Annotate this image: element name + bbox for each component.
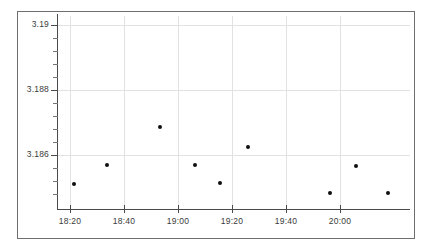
x-tick-20:00 bbox=[340, 205, 341, 213]
data-point bbox=[218, 181, 222, 185]
x-tick-19:40 bbox=[286, 205, 287, 213]
data-point bbox=[386, 191, 390, 195]
x-tick-label-20:00: 20:00 bbox=[317, 216, 363, 226]
x-tick-label-18:20: 18:20 bbox=[47, 216, 93, 226]
y-tick-3.188 bbox=[51, 90, 58, 91]
gridline-vertical-20:00 bbox=[340, 16, 341, 207]
y-tick-label-3.19: 3.19 bbox=[9, 20, 49, 29]
gridline-vertical-18:20 bbox=[70, 16, 71, 207]
y-tick-label-3.186: 3.186 bbox=[9, 150, 49, 159]
y-tick-3.186 bbox=[51, 155, 58, 156]
gridline-horizontal-3.188 bbox=[57, 90, 410, 91]
gridline-vertical-19:40 bbox=[286, 16, 287, 207]
y-minor-tick-8 bbox=[53, 168, 58, 169]
y-minor-tick-5 bbox=[53, 116, 58, 117]
y-axis-tick-labels: 3.193.1883.186 bbox=[3, 0, 49, 252]
gridline-vertical-19:20 bbox=[232, 16, 233, 207]
x-tick-label-19:40: 19:40 bbox=[263, 216, 309, 226]
y-minor-tick-0 bbox=[53, 38, 58, 39]
data-point bbox=[246, 145, 250, 149]
x-tick-19:20 bbox=[232, 205, 233, 213]
y-minor-tick-9 bbox=[53, 181, 58, 182]
y-tick-label-3.188: 3.188 bbox=[9, 85, 49, 94]
gridline-horizontal-3.186 bbox=[57, 155, 410, 156]
x-axis-line bbox=[57, 209, 410, 210]
data-point bbox=[328, 191, 332, 195]
y-minor-tick-10 bbox=[53, 194, 58, 195]
data-point bbox=[105, 163, 109, 167]
data-point bbox=[193, 163, 197, 167]
y-minor-tick-7 bbox=[53, 142, 58, 143]
gridline-vertical-19:00 bbox=[178, 16, 179, 207]
x-tick-label-18:40: 18:40 bbox=[101, 216, 147, 226]
data-point bbox=[354, 164, 358, 168]
x-tick-19:00 bbox=[178, 205, 179, 213]
y-minor-tick-1 bbox=[53, 51, 58, 52]
y-minor-tick-4 bbox=[53, 103, 58, 104]
scatter-chart-figure: 3.193.1883.186 18:2018:4019:0019:2019:40… bbox=[0, 0, 429, 252]
y-minor-tick-2 bbox=[53, 64, 58, 65]
x-tick-18:20 bbox=[70, 205, 71, 213]
x-tick-18:40 bbox=[124, 205, 125, 213]
data-point bbox=[72, 182, 76, 186]
y-tick-3.19 bbox=[51, 25, 58, 26]
x-tick-label-19:00: 19:00 bbox=[155, 216, 201, 226]
y-minor-tick-6 bbox=[53, 129, 58, 130]
plot-area bbox=[57, 16, 410, 207]
x-tick-label-19:20: 19:20 bbox=[209, 216, 255, 226]
gridline-vertical-18:40 bbox=[124, 16, 125, 207]
data-point bbox=[158, 125, 162, 129]
gridline-horizontal-3.19 bbox=[57, 25, 410, 26]
y-minor-tick-3 bbox=[53, 77, 58, 78]
